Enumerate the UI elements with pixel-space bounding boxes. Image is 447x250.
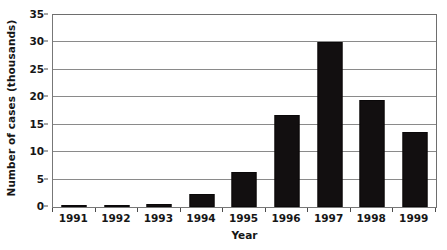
bar[interactable] <box>62 205 87 207</box>
x-axis-tick-label: 1992 <box>101 212 130 224</box>
y-axis-tick-label: 35 <box>29 8 44 20</box>
y-axis-tick-mark <box>44 14 48 15</box>
plot-area <box>52 14 437 208</box>
x-axis-title: Year <box>52 229 437 241</box>
y-axis-tick-label: 5 <box>37 173 44 185</box>
y-axis-tick-mark <box>44 178 48 179</box>
bar[interactable] <box>317 42 342 207</box>
y-axis-tick-label: 15 <box>29 118 44 130</box>
y-axis-tick-mark <box>44 151 48 152</box>
y-axis-tick-label: 25 <box>29 63 44 75</box>
x-axis-tick-label: 1996 <box>271 212 300 224</box>
x-axis-tick-label: 1993 <box>144 212 173 224</box>
y-axis-tick-mark <box>44 68 48 69</box>
bar-slot <box>308 15 351 207</box>
y-axis-tick-label: 20 <box>29 90 44 102</box>
bar-slot <box>351 15 394 207</box>
bar-slot <box>96 15 139 207</box>
bar-slot <box>181 15 224 207</box>
x-axis-tick-labels: 199119921993199419951996199719981999 <box>52 212 437 228</box>
bar-chart: Number of cases (thousands) 051015202530… <box>0 0 447 250</box>
y-axis-tick-labels: 05101520253035 <box>20 9 48 209</box>
bar-slot <box>266 15 309 207</box>
x-axis-tick-label: 1999 <box>399 212 428 224</box>
y-axis-tick-mark <box>44 123 48 124</box>
bar-slot <box>138 15 181 207</box>
bar-slot <box>393 15 436 207</box>
y-axis-tick-mark <box>44 41 48 42</box>
bar[interactable] <box>275 115 300 207</box>
y-axis-title: Number of cases (thousands) <box>0 0 22 215</box>
y-axis-tick-label: 0 <box>37 200 44 212</box>
y-axis-tick-label: 30 <box>29 35 44 47</box>
x-axis-tick-label: 1995 <box>229 212 258 224</box>
y-axis-tick-mark <box>44 96 48 97</box>
bar-slot <box>53 15 96 207</box>
bar[interactable] <box>360 100 385 207</box>
bar[interactable] <box>104 205 129 207</box>
bar[interactable] <box>189 194 214 207</box>
bar[interactable] <box>402 132 427 207</box>
x-axis-tick-label: 1991 <box>59 212 88 224</box>
bar[interactable] <box>147 204 172 207</box>
y-axis-tick-label: 10 <box>29 145 44 157</box>
y-axis-tick-mark <box>44 206 48 207</box>
bar-slot <box>223 15 266 207</box>
x-axis-tick-label: 1998 <box>357 212 386 224</box>
x-axis-tick-label: 1997 <box>314 212 343 224</box>
bars-layer <box>53 15 436 207</box>
bar[interactable] <box>232 172 257 207</box>
x-axis-tick-label: 1994 <box>186 212 215 224</box>
y-axis-title-text: Number of cases (thousands) <box>5 19 17 196</box>
